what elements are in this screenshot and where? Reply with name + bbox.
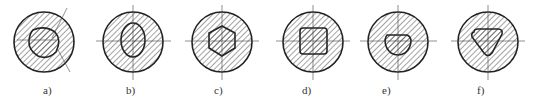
figure-b bbox=[96, 5, 171, 80]
label-c: c) bbox=[214, 84, 223, 96]
figure-a bbox=[14, 8, 74, 72]
figure-e bbox=[360, 5, 437, 80]
label-f: f) bbox=[477, 84, 484, 96]
label-a: a) bbox=[43, 84, 52, 96]
figure-f bbox=[451, 5, 525, 80]
figure-c bbox=[185, 5, 259, 80]
label-d: d) bbox=[302, 84, 311, 96]
figure-d bbox=[276, 5, 350, 80]
label-e: e) bbox=[382, 84, 391, 96]
cross-section-diagrams bbox=[0, 0, 535, 107]
label-b: b) bbox=[126, 84, 135, 96]
